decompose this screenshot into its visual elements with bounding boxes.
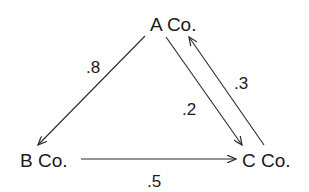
- transition-diagram: .8 .2 .3 .5 A Co. B Co. C Co.: [0, 0, 309, 192]
- node-b-co: B Co.: [20, 150, 68, 171]
- edge-label-a-to-b: .8: [86, 58, 100, 77]
- node-a-co: A Co.: [150, 14, 196, 35]
- edge-c-to-a-arrow: [189, 37, 264, 145]
- edge-label-b-to-c: .5: [147, 172, 161, 191]
- edge-label-a-to-c: .2: [182, 100, 196, 119]
- edge-a-to-c-arrow: [166, 37, 242, 145]
- node-c-co: C Co.: [242, 150, 291, 171]
- edge-a-to-b-arrow: [38, 36, 145, 145]
- edge-label-c-to-a: .3: [234, 74, 248, 93]
